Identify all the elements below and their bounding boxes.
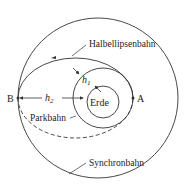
point-b-dot	[17, 97, 20, 100]
parking-orbit-leader	[70, 116, 76, 118]
transfer-orbit-label: Halbellipsenbahn	[89, 39, 156, 49]
point-a-label: A	[137, 93, 145, 104]
point-a-dot	[132, 97, 135, 100]
transfer-orbit-leader	[72, 45, 86, 56]
point-b-label: B	[7, 93, 14, 104]
h1-label: h1	[82, 74, 91, 87]
synchronous-orbit-label: Synchronbahn	[89, 158, 144, 168]
synchronous-orbit-leader	[69, 163, 86, 174]
h1-arrow-outer	[73, 68, 79, 74]
h2-label: h2	[45, 92, 54, 105]
orbit-transfer-diagram: A B h2 h1 Erde Halbellipsenbahn Parkbahn…	[0, 0, 193, 193]
direction-arrow-icon	[51, 56, 56, 59]
parking-orbit-label: Parkbahn	[30, 113, 66, 123]
earth-label: Erde	[90, 97, 109, 108]
